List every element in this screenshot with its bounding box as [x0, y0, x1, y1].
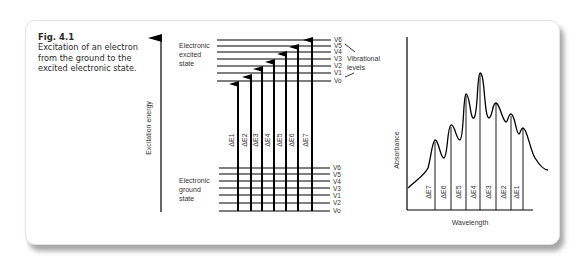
svg-text:ΔE6: ΔE6 [288, 133, 295, 146]
excited-level-labels: V6 V5 V4 V3 V2 V1 Vo [334, 36, 342, 84]
svg-text:V3: V3 [334, 55, 342, 62]
svg-text:V4: V4 [333, 178, 341, 185]
svg-text:Vibrational: Vibrational [347, 55, 380, 62]
svg-text:ΔE5: ΔE5 [276, 133, 283, 146]
svg-text:Vo: Vo [334, 77, 342, 84]
svg-text:ΔE1: ΔE1 [513, 185, 520, 198]
ground-state-label: Electronic ground state [179, 177, 210, 202]
svg-text:V4: V4 [334, 48, 342, 55]
svg-text:excited: excited [179, 51, 201, 58]
svg-text:ΔE2: ΔE2 [500, 185, 507, 198]
svg-text:V6: V6 [333, 164, 341, 171]
vibrational-levels-callout: Vibrational levels [345, 44, 380, 77]
svg-text:V5: V5 [333, 171, 341, 178]
ground-level-labels: V6 V5 V4 V3 V1 V2 Vo [333, 164, 341, 214]
excitation-energy-label: Excitation energy [145, 101, 153, 155]
absorbance-label: Absorbance [393, 131, 400, 168]
svg-text:ΔE4: ΔE4 [470, 185, 477, 198]
svg-text:ΔE1: ΔE1 [228, 133, 235, 146]
svg-text:V1: V1 [334, 69, 342, 76]
svg-text:ΔE5: ΔE5 [455, 185, 462, 198]
energy-diagram: Excitation energy Electronic excited sta… [0, 0, 588, 261]
svg-text:ΔE7: ΔE7 [302, 133, 309, 146]
svg-text:state: state [179, 60, 194, 67]
absorbance-curve [408, 73, 548, 188]
svg-text:ΔE6: ΔE6 [440, 185, 447, 198]
svg-text:ΔE2: ΔE2 [241, 133, 248, 146]
svg-text:levels: levels [347, 64, 365, 71]
svg-text:V3: V3 [333, 185, 341, 192]
svg-text:V1: V1 [333, 192, 341, 199]
svg-text:V2: V2 [334, 62, 342, 69]
spectrum-band-labels: ΔE7 ΔE6 ΔE5 ΔE4 ΔE3 ΔE2 ΔE1 [425, 185, 520, 198]
svg-text:ΔE7: ΔE7 [425, 185, 432, 198]
svg-text:ΔE3: ΔE3 [485, 185, 492, 198]
excited-state-label: Electronic excited state [179, 42, 210, 67]
transition-labels: ΔE1 ΔE2 ΔE3 ΔE4 ΔE5 ΔE6 ΔE7 [228, 133, 309, 146]
svg-text:Vo: Vo [333, 207, 341, 214]
svg-text:Electronic: Electronic [179, 42, 210, 49]
wavelength-label: Wavelength [452, 219, 489, 227]
absorption-spectrum: Absorbance Wavelength ΔE7 ΔE6 ΔE5 ΔE4 ΔE… [393, 37, 548, 227]
svg-text:Electronic: Electronic [179, 177, 210, 184]
svg-text:ΔE3: ΔE3 [252, 133, 259, 146]
svg-text:state: state [179, 195, 194, 202]
svg-text:ΔE4: ΔE4 [264, 133, 271, 146]
svg-text:ground: ground [179, 186, 201, 194]
svg-text:V2: V2 [333, 199, 341, 206]
excitation-energy-axis: Excitation energy [145, 38, 161, 212]
